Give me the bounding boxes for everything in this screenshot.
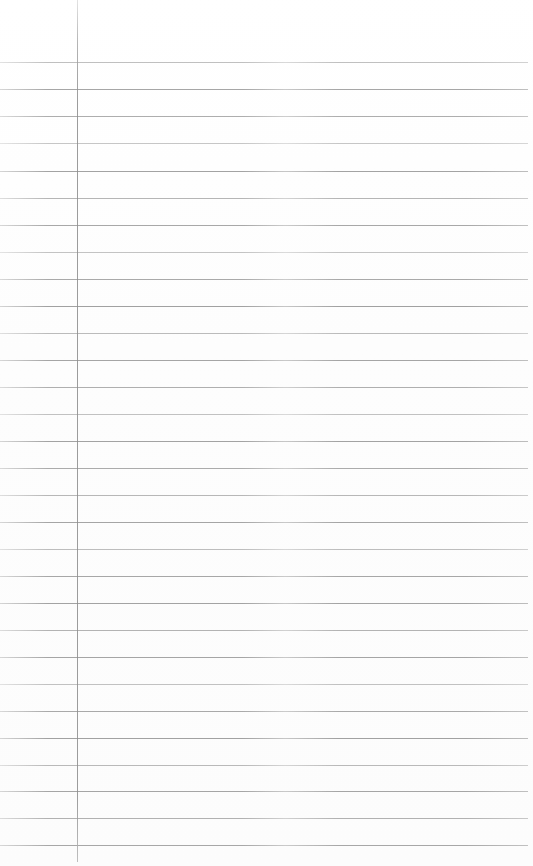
rule-line xyxy=(0,495,528,496)
rule-line xyxy=(0,333,528,334)
rule-line xyxy=(0,711,528,712)
rule-line xyxy=(0,252,528,253)
rule-line xyxy=(0,549,528,550)
rule-line xyxy=(0,360,528,361)
rule-line xyxy=(0,414,528,415)
rule-line xyxy=(0,765,528,766)
rule-line xyxy=(0,441,528,442)
rule-line xyxy=(0,738,528,739)
rule-line xyxy=(0,657,528,658)
rule-line xyxy=(0,845,528,846)
rule-line xyxy=(0,171,528,172)
paper-surface xyxy=(0,0,533,866)
margin-rule-line xyxy=(77,0,78,862)
rule-line xyxy=(0,630,528,631)
rule-line xyxy=(0,62,528,63)
margin-column xyxy=(0,0,77,866)
header-area xyxy=(0,0,533,62)
rule-line xyxy=(0,522,528,523)
rule-line xyxy=(0,684,528,685)
rule-line xyxy=(0,143,528,144)
rule-line xyxy=(0,576,528,577)
rule-line xyxy=(0,603,528,604)
rule-line xyxy=(0,468,528,469)
rule-line xyxy=(0,225,528,226)
rule-line xyxy=(0,279,528,280)
rule-line xyxy=(0,198,528,199)
rule-line xyxy=(0,791,528,792)
rule-line xyxy=(0,387,528,388)
notebook-page xyxy=(0,0,533,866)
rule-line xyxy=(0,818,528,819)
rule-line xyxy=(0,89,528,90)
rule-line xyxy=(0,116,528,117)
rule-line xyxy=(0,306,528,307)
writing-area xyxy=(78,62,533,866)
